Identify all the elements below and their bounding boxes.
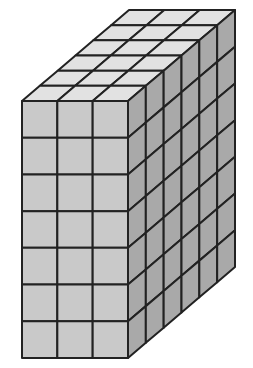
front-cube-face	[93, 248, 128, 285]
front-cube-face	[57, 211, 92, 248]
front-cube-face	[22, 321, 57, 358]
front-cube-face	[93, 174, 128, 211]
front-cube-face	[93, 285, 128, 322]
front-cube-face	[22, 285, 57, 322]
front-cube-face	[57, 321, 92, 358]
front-cube-face	[22, 248, 57, 285]
front-cube-face	[93, 211, 128, 248]
front-cube-face	[22, 211, 57, 248]
front-cube-face	[57, 174, 92, 211]
prism-drawing	[0, 0, 253, 368]
front-cube-face	[93, 101, 128, 138]
front-cube-face	[22, 138, 57, 175]
front-cube-face	[57, 138, 92, 175]
front-cube-face	[22, 174, 57, 211]
front-cube-face	[57, 248, 92, 285]
front-cube-face	[22, 101, 57, 138]
cube-prism-figure: Rectangular prism built from unit cubes	[0, 0, 253, 368]
front-cube-face	[93, 321, 128, 358]
front-cube-face	[57, 285, 92, 322]
front-cube-face	[57, 101, 92, 138]
front-face	[22, 101, 128, 358]
front-cube-face	[93, 138, 128, 175]
